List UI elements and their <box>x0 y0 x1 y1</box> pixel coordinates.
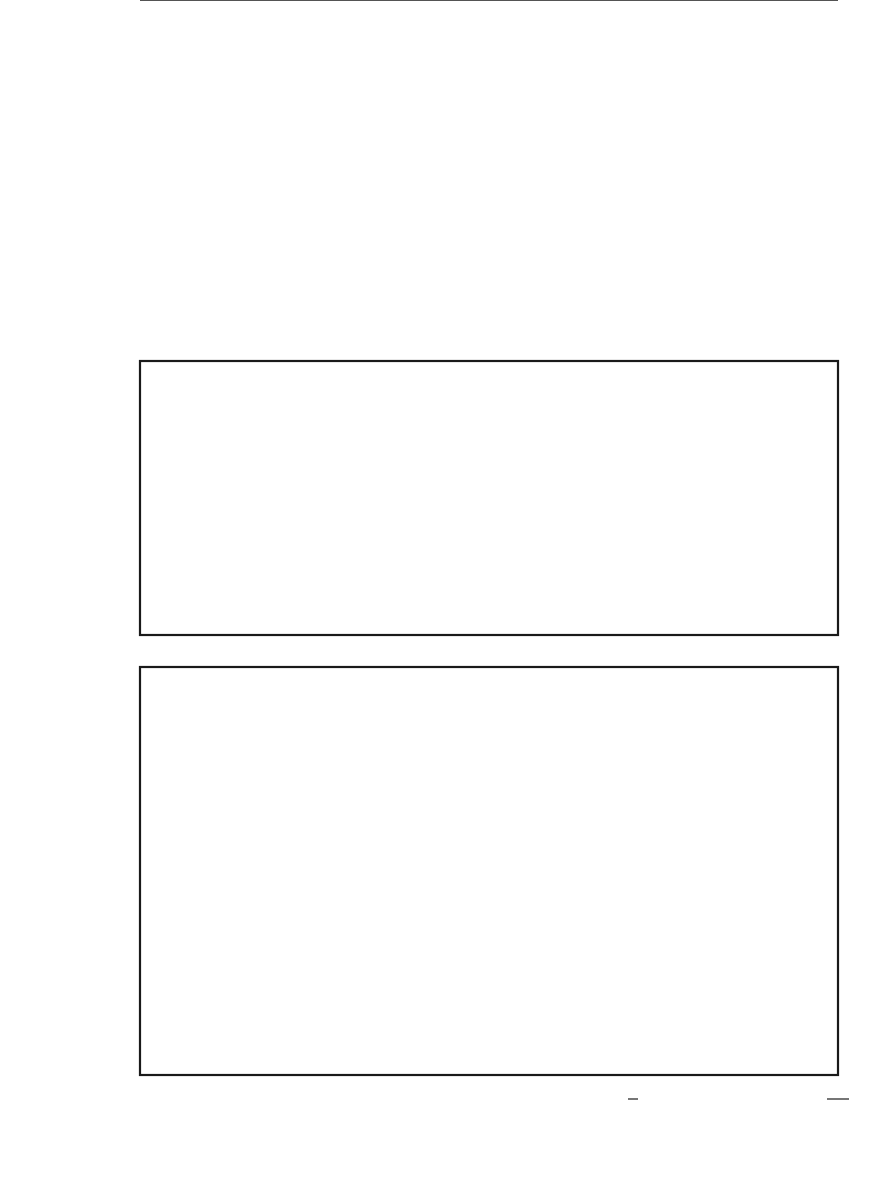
anisotropy-chart <box>140 0 838 635</box>
radial-power-chart <box>0 0 849 1099</box>
radial-power-plot-frame <box>140 667 838 1075</box>
figure-canvas <box>0 0 886 1193</box>
anisotropy-plot-frame <box>140 361 838 635</box>
